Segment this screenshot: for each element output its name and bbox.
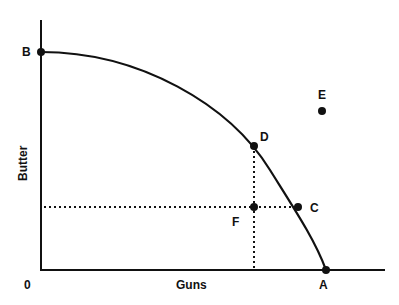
label-a: A — [319, 278, 328, 292]
ppf-diagram: B D C F E A 0 Guns Butter — [0, 0, 399, 305]
y-axis-label: Butter — [16, 145, 30, 181]
label-b: B — [22, 45, 31, 59]
point-f — [250, 203, 258, 211]
origin-label: 0 — [24, 278, 31, 292]
x-axis-label: Guns — [176, 278, 207, 292]
label-c: C — [310, 201, 319, 215]
point-b — [37, 48, 45, 56]
point-d — [250, 142, 258, 150]
label-f: F — [232, 215, 239, 229]
ppf-curve — [41, 52, 326, 270]
point-e — [318, 107, 326, 115]
label-e: E — [318, 88, 326, 102]
point-c — [294, 203, 302, 211]
label-d: D — [260, 130, 269, 144]
point-a — [322, 266, 330, 274]
